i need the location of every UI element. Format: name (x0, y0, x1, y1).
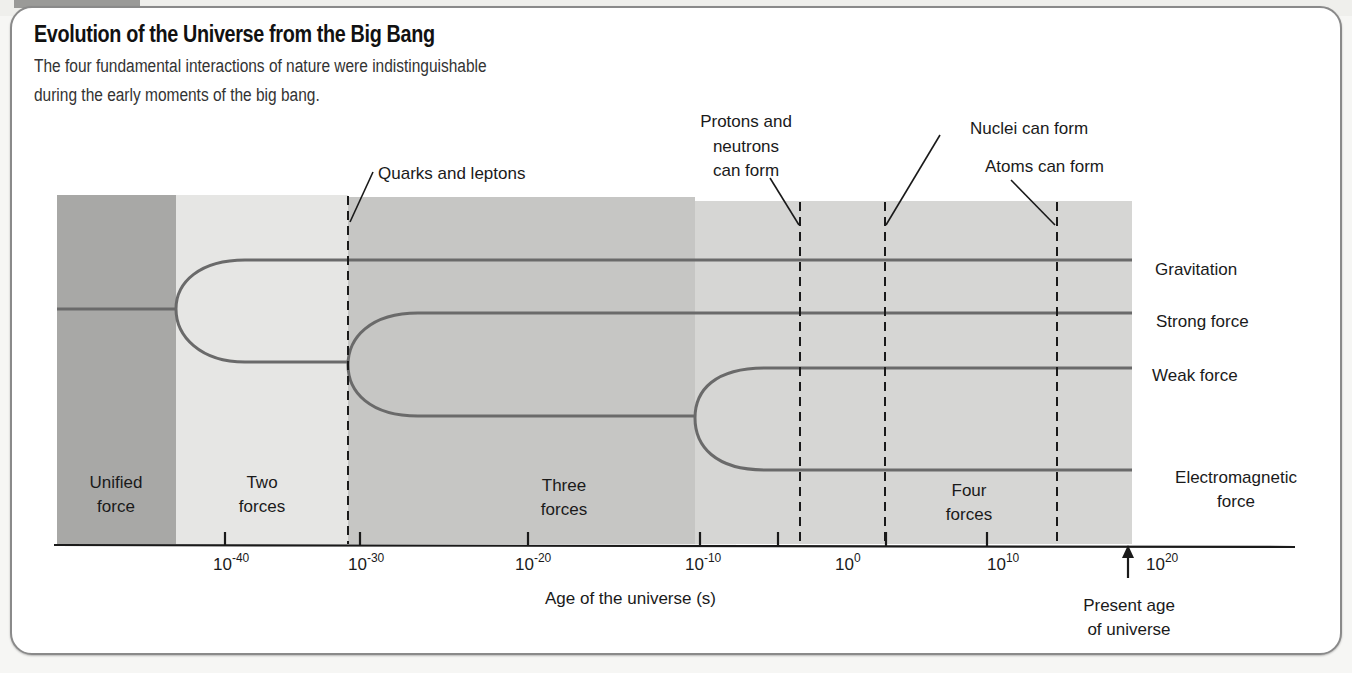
force-label-gravitation: Gravitation (1155, 260, 1237, 279)
era-label-three-1: Three (542, 476, 586, 495)
tick-label-1e-10: 10-10 (685, 551, 722, 574)
force-labels: Gravitation Strong force Weak force Elec… (1152, 260, 1297, 511)
tick-label-1e0: 100 (835, 551, 861, 574)
event-label-atoms: Atoms can form (985, 157, 1104, 176)
era-label-unified-1: Unified (90, 473, 143, 492)
era-label-two-2: forces (239, 497, 285, 516)
event-label-protons-1: Protons and (700, 112, 792, 131)
era-label-two-1: Two (246, 473, 277, 492)
tick-label-1e10: 1010 (987, 551, 1020, 574)
event-label-quarks: Quarks and leptons (378, 164, 525, 183)
force-label-weak: Weak force (1152, 366, 1238, 385)
region-four-forces (695, 201, 1132, 544)
era-label-four-2: forces (946, 505, 992, 524)
event-label-protons-3: can form (713, 161, 779, 180)
forces-diagram: Quarks and leptons Protons and neutrons … (0, 0, 1352, 673)
force-label-strong: Strong force (1156, 312, 1249, 331)
tick-label-1e20: 1020 (1146, 551, 1179, 574)
era-label-four-1: Four (952, 481, 987, 500)
force-label-em-2: force (1217, 492, 1255, 511)
event-label-protons-2: neutrons (713, 137, 779, 156)
tick-label-1e-20: 10-20 (515, 551, 552, 574)
tick-label-1e-30: 10-30 (348, 551, 385, 574)
event-label-nuclei: Nuclei can form (970, 119, 1088, 138)
event-labels: Quarks and leptons Protons and neutrons … (378, 112, 1104, 183)
era-label-unified-2: force (97, 497, 135, 516)
axis-line (54, 545, 1295, 547)
force-label-em-1: Electromagnetic (1175, 468, 1297, 487)
tick-label-1e-40: 10-40 (213, 551, 250, 574)
region-three-forces (348, 197, 695, 544)
tick-labels: 10-40 10-30 10-20 10-10 100 1010 1020 (213, 551, 1179, 574)
present-age-label-2: of universe (1087, 620, 1170, 639)
axis-title: Age of the universe (s) (545, 589, 716, 608)
present-age-label-1: Present age (1083, 596, 1175, 615)
era-label-three-2: forces (541, 500, 587, 519)
